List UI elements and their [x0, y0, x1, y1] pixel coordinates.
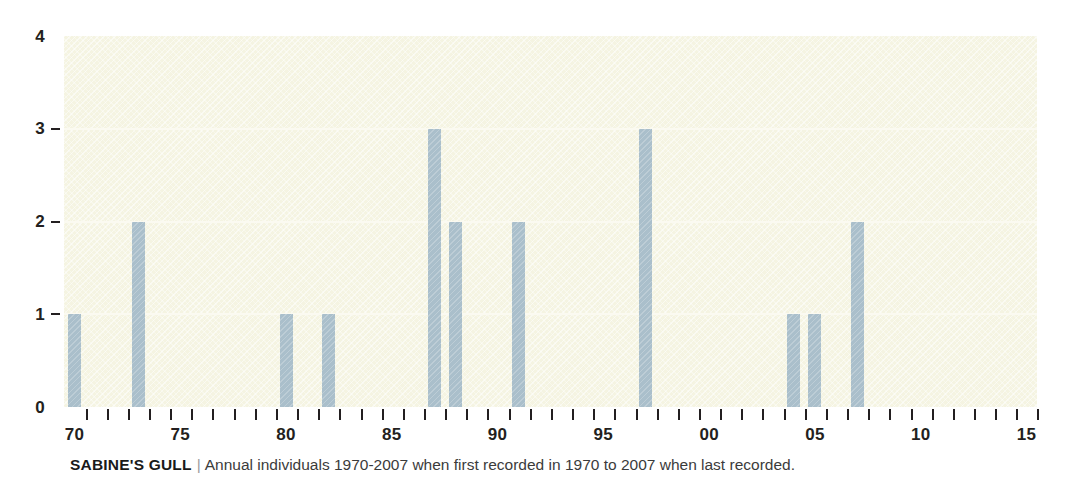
x-axis-tick-mark: [86, 409, 88, 420]
x-axis-tick-mark: [255, 409, 257, 420]
y-axis-tick-label: 2: [35, 213, 45, 230]
x-axis-tick-mark: [276, 409, 278, 420]
bar: [449, 222, 462, 408]
x-axis-tick-mark: [234, 409, 236, 420]
x-axis-tick-mark: [128, 409, 130, 420]
caption-separator: |: [192, 456, 205, 473]
x-axis-tick-mark: [678, 409, 680, 420]
caption-species-name: SABINE'S GULL: [70, 456, 192, 473]
chart-caption: SABINE'S GULL|Annual individuals 1970-20…: [70, 455, 1030, 474]
bar: [512, 222, 525, 408]
x-axis-tick-mark: [191, 409, 193, 420]
plot-area: [64, 36, 1037, 407]
x-axis-tick-label-10: 10: [911, 425, 931, 445]
bar: [851, 222, 864, 408]
x-axis-tick-label-85: 85: [382, 425, 402, 445]
bar: [132, 222, 145, 408]
chart-figure: 01234 70758085909500051015 SABINE'S GULL…: [0, 0, 1068, 497]
x-axis-tick-label-00: 00: [699, 425, 719, 445]
y-axis-tick-mark: [51, 128, 60, 130]
y-axis-tick-mark: [51, 35, 60, 37]
x-axis-tick-mark: [424, 409, 426, 420]
y-axis-tick-label: 3: [35, 120, 45, 137]
x-axis-tick-mark: [974, 409, 976, 420]
x-axis-tick-mark: [932, 409, 934, 420]
x-axis-tick-mark: [657, 409, 659, 420]
bar: [68, 314, 81, 407]
x-axis-tick-mark: [995, 409, 997, 420]
x-axis-tick-mark: [741, 409, 743, 420]
x-axis-tick-mark: [720, 409, 722, 420]
x-axis-tick-mark: [466, 409, 468, 420]
x-axis-tick-mark: [572, 409, 574, 420]
x-axis-tick-label-90: 90: [488, 425, 508, 445]
x-axis-tick-label-75: 75: [171, 425, 191, 445]
bar: [280, 314, 293, 407]
x-axis-tick-label-95: 95: [594, 425, 614, 445]
y-axis-tick-label: 0: [35, 399, 45, 416]
x-axis-tick-mark: [1016, 409, 1018, 420]
x-axis-tick-mark: [847, 409, 849, 420]
y-axis-tick-mark: [51, 313, 60, 315]
x-axis-tick-mark: [107, 409, 109, 420]
y-axis-tick-mark: [51, 406, 60, 408]
x-axis-tick-mark: [826, 409, 828, 420]
y-axis-tick-mark: [51, 221, 60, 223]
bar: [787, 314, 800, 407]
bar: [639, 129, 652, 407]
x-axis-tick-mark: [636, 409, 638, 420]
y-axis-tick-label: 1: [35, 306, 45, 323]
x-axis-tick-mark: [170, 409, 172, 420]
y-axis-tick-label: 4: [35, 28, 45, 45]
x-axis-tick-mark: [911, 409, 913, 420]
x-axis-tick-mark: [403, 409, 405, 420]
x-axis-tick-label-15: 15: [1017, 425, 1037, 445]
x-axis-tick-mark: [868, 409, 870, 420]
bar: [808, 314, 821, 407]
x-axis-tick-mark: [487, 409, 489, 420]
bar: [428, 129, 441, 407]
x-axis-tick-label-80: 80: [276, 425, 296, 445]
x-axis-tick-mark: [699, 409, 701, 420]
x-axis-tick-mark: [361, 409, 363, 420]
x-axis: 70758085909500051015: [64, 407, 1037, 453]
bar: [322, 314, 335, 407]
x-axis-tick-mark: [784, 409, 786, 420]
x-axis-tick-label-05: 05: [805, 425, 825, 445]
x-axis-tick-mark: [445, 409, 447, 420]
x-axis-tick-mark: [762, 409, 764, 420]
gridline-3: [64, 128, 1037, 130]
x-axis-tick-mark: [509, 409, 511, 420]
x-axis-tick-mark: [805, 409, 807, 420]
y-axis: 01234: [0, 0, 64, 440]
x-axis-tick-mark: [1037, 409, 1039, 420]
x-axis-tick-mark: [593, 409, 595, 420]
x-axis-tick-mark: [953, 409, 955, 420]
caption-description: Annual individuals 1970-2007 when first …: [205, 456, 795, 473]
x-axis-tick-mark: [382, 409, 384, 420]
x-axis-tick-mark: [297, 409, 299, 420]
x-axis-tick-label-70: 70: [65, 425, 85, 445]
gridline-1: [64, 313, 1037, 315]
x-axis-tick-mark: [614, 409, 616, 420]
gridline-2: [64, 221, 1037, 223]
x-axis-tick-mark: [318, 409, 320, 420]
x-axis-tick-mark: [339, 409, 341, 420]
x-axis-tick-mark: [530, 409, 532, 420]
x-axis-tick-mark: [212, 409, 214, 420]
x-axis-tick-mark: [149, 409, 151, 420]
x-axis-tick-mark: [551, 409, 553, 420]
x-axis-tick-mark: [889, 409, 891, 420]
